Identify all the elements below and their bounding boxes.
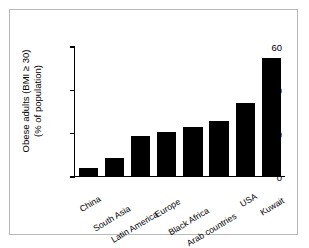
bar-black-africa [183,127,202,177]
bar-china [79,168,98,177]
x-axis-category-labels: ChinaSouth AsiaLatin AmericaEuropeBlack … [75,180,284,234]
bar-cell [75,47,101,177]
chart-figure: Obese adults (BMI ≥ 30) (% of population… [9,9,298,235]
plot-area: 0204060 [74,40,289,180]
bar-cell [128,47,154,177]
y-tick-20 [70,133,75,134]
x-axis-label-usa: USA [238,191,258,209]
bar-kuwait [262,58,281,177]
bar-cell [102,47,128,177]
bar-usa [236,103,255,177]
bar-europe [157,132,176,178]
bar-latin-america [131,136,150,177]
x-axis-label-kuwait: Kuwait [259,195,287,217]
y-axis-title: Obese adults (BMI ≥ 30) (% of population… [16,26,50,176]
bar-cell [180,47,206,177]
y-axis-title-line2: (% of population) [32,65,43,137]
y-tick-0 [70,176,75,177]
bar-south-asia [105,158,124,178]
x-axis-label-europe: Europe [153,196,182,219]
y-axis-title-line1: Obese adults (BMI ≥ 30) [20,50,31,153]
bar-cell [154,47,180,177]
bar-cell [206,47,232,177]
bar-series [75,47,284,177]
y-tick-40 [70,90,75,91]
bar-cell [232,47,258,177]
bar-cell [258,47,284,177]
bar-arab-countries [209,121,228,177]
x-axis-label-china: China [78,194,103,214]
y-tick-60 [70,46,75,47]
